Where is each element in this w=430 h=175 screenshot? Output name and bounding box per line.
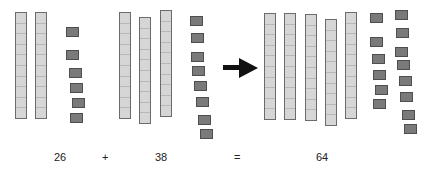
unit-cube — [191, 33, 204, 43]
unit-cube — [370, 13, 383, 23]
unit-cube — [373, 70, 386, 80]
unit-cube — [190, 16, 203, 26]
unit-cube — [399, 76, 412, 86]
unit-cube — [404, 124, 417, 134]
unit-cube — [200, 129, 213, 139]
plus-sign: + — [102, 151, 108, 163]
ten-rod — [15, 12, 27, 119]
unit-cube — [395, 47, 408, 57]
ten-rod — [35, 12, 47, 119]
unit-cube — [373, 99, 386, 109]
unit-cube — [402, 110, 415, 120]
unit-cube — [70, 113, 83, 123]
ten-rod — [325, 19, 337, 126]
ten-rod — [305, 14, 317, 121]
unit-cube — [397, 60, 410, 70]
unit-cube — [396, 28, 409, 38]
unit-cube — [66, 27, 79, 37]
equals-sign: = — [234, 151, 240, 163]
ten-rod — [119, 12, 131, 119]
unit-cube — [370, 37, 383, 47]
ten-rod — [160, 10, 172, 117]
ten-rod — [345, 12, 357, 119]
unit-cube — [375, 85, 388, 95]
addend1-label: 26 — [54, 151, 66, 163]
sum-label: 64 — [316, 151, 328, 163]
addend2-label: 38 — [155, 151, 167, 163]
unit-cube — [196, 97, 209, 107]
unit-cube — [66, 50, 79, 60]
right-arrow-icon — [223, 57, 259, 79]
unit-cube — [70, 83, 83, 93]
unit-cube — [69, 68, 82, 78]
unit-cube — [72, 98, 85, 108]
unit-cube — [395, 10, 408, 20]
unit-cube — [198, 115, 211, 125]
ten-rod — [264, 13, 276, 120]
ten-rod — [139, 17, 151, 124]
ten-rod — [284, 13, 296, 120]
unit-cube — [400, 92, 413, 102]
unit-cube — [191, 52, 204, 62]
unit-cube — [372, 54, 385, 64]
base-ten-addition-diagram: 26 + 38 = 64 — [0, 0, 430, 175]
unit-cube — [192, 66, 205, 76]
unit-cube — [194, 81, 207, 91]
